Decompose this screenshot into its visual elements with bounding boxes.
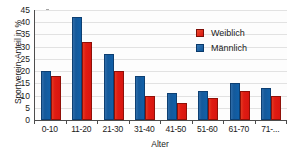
legend: WeiblichMännlich xyxy=(196,26,284,56)
y-tick-label: 5 xyxy=(14,104,30,113)
bar-group xyxy=(104,10,124,120)
x-tick-label: 51-60 xyxy=(192,124,223,137)
legend-item: Weiblich xyxy=(196,26,284,39)
legend-item: Männlich xyxy=(196,41,284,54)
x-tick-label: 61-70 xyxy=(223,124,254,137)
bar-weiblich xyxy=(82,42,92,120)
y-tick-label: 20 xyxy=(14,67,30,76)
x-tick-label: 71-... xyxy=(255,124,286,137)
bar-group xyxy=(72,10,92,120)
y-axis-tick-labels: 051015202530354045 xyxy=(14,10,30,120)
bar-maennlich xyxy=(261,88,271,120)
bar-group xyxy=(41,10,61,120)
y-tick-label: 25 xyxy=(14,55,30,64)
legend-label: Männlich xyxy=(211,43,247,53)
bar-weiblich xyxy=(240,91,250,120)
bar-weiblich xyxy=(51,76,61,120)
bar-maennlich xyxy=(41,71,51,120)
y-tick-label: 30 xyxy=(14,42,30,51)
bar-maennlich xyxy=(198,91,208,120)
y-tick-label: 0 xyxy=(14,116,30,125)
bar-maennlich xyxy=(104,54,114,120)
legend-swatch-icon xyxy=(196,29,204,37)
bar-maennlich xyxy=(72,17,82,120)
bar-weiblich xyxy=(114,71,124,120)
x-axis-tick-labels: 0-1011-2021-3031-4041-5051-6061-7071-... xyxy=(34,124,286,137)
x-tick-label: 0-10 xyxy=(34,124,65,137)
bar-maennlich xyxy=(230,83,240,120)
x-tick-label: 11-20 xyxy=(66,124,97,137)
bar-chart: Sportverein-Anteil in % 0510152025303540… xyxy=(0,0,291,164)
legend-label: Weiblich xyxy=(211,28,245,38)
bar-weiblich xyxy=(145,96,155,120)
y-tick-label: 40 xyxy=(14,18,30,27)
bar-group xyxy=(167,10,187,120)
y-tick-label: 10 xyxy=(14,91,30,100)
x-tick-label: 21-30 xyxy=(97,124,128,137)
x-tick-mark xyxy=(286,121,287,124)
bar-weiblich xyxy=(208,98,218,120)
bar-weiblich xyxy=(177,103,187,120)
x-tick-label: 31-40 xyxy=(129,124,160,137)
x-tick-label: 41-50 xyxy=(160,124,191,137)
x-axis-title: Alter xyxy=(34,139,286,149)
bar-group xyxy=(135,10,155,120)
y-tick-label: 35 xyxy=(14,30,30,39)
bar-maennlich xyxy=(135,76,145,120)
y-tick-label: 15 xyxy=(14,79,30,88)
y-tick-label: 45 xyxy=(14,6,30,15)
legend-swatch-icon xyxy=(196,44,204,52)
bar-maennlich xyxy=(167,93,177,120)
bar-weiblich xyxy=(271,96,281,120)
